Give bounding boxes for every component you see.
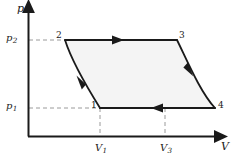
tick-label-v1: V1: [95, 143, 107, 154]
pv-diagram-figure: p V p2 p1 V1 V3 2 3 4 1: [0, 0, 236, 158]
tick-p2-main: p: [6, 32, 12, 43]
state-point-label-4: 4: [218, 101, 224, 110]
tick-p2-sub: 2: [13, 36, 18, 45]
tick-p1-sub: 1: [13, 104, 18, 113]
tick-label-v3: V3: [160, 143, 172, 154]
tick-label-p2: p2: [6, 33, 17, 44]
tick-v1-sub: 1: [103, 146, 108, 155]
tick-v1-main: V: [95, 142, 102, 153]
tick-v3-sub: 3: [168, 146, 173, 155]
tick-label-p1: p1: [6, 101, 17, 112]
tick-p1-main: p: [6, 100, 12, 111]
state-point-label-3: 3: [179, 31, 185, 40]
volume-axis-label: V: [221, 141, 229, 152]
state-point-label-2: 2: [56, 31, 62, 40]
tick-v3-main: V: [160, 142, 167, 153]
state-point-label-1: 1: [91, 101, 97, 110]
pv-diagram-canvas: [0, 0, 236, 158]
pressure-axis-label: p: [17, 3, 24, 14]
